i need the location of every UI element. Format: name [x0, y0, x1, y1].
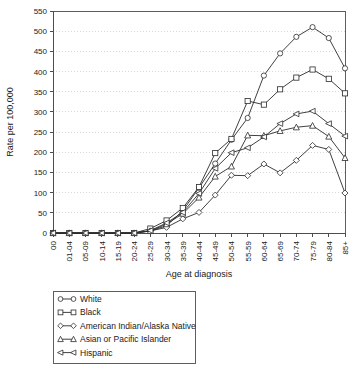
legend-layer: WhiteBlackAmerican Indian/Alaska NativeA… [53, 291, 196, 363]
series-layer [50, 25, 348, 236]
x-tick-label: 80-84 [325, 240, 334, 261]
x-tick-label: 55-59 [244, 240, 253, 261]
data-point-marker-circle [294, 34, 299, 39]
y-tick-label: 350 [34, 88, 48, 97]
grid-layer [53, 11, 345, 213]
data-point-marker-triangle [326, 133, 332, 139]
x-tick-label: 30-34 [163, 240, 172, 261]
y-tick-label: 50 [38, 209, 47, 218]
data-point-marker-circle [58, 297, 63, 302]
y-tick-label: 0 [43, 229, 48, 238]
chart-figure: 0501001502002503003504004505005500001-04… [0, 0, 355, 371]
y-tick-label: 400 [34, 68, 48, 77]
data-point-marker-diamond [342, 190, 348, 196]
x-tick-label: 20-24 [130, 240, 139, 261]
y-tick-label: 500 [34, 27, 48, 36]
y-tick-label: 200 [34, 148, 48, 157]
series-hispanic [50, 108, 348, 235]
x-tick-label: 70-74 [292, 240, 301, 261]
data-point-marker-triangle [310, 123, 316, 129]
data-point-marker-left-triangle [244, 145, 250, 151]
data-point-marker-left-triangle [309, 108, 315, 114]
y-tick-label: 150 [34, 168, 48, 177]
x-tick-label: 65-69 [276, 240, 285, 261]
x-tick-label: 25-29 [146, 240, 155, 261]
data-point-marker-circle [213, 161, 218, 166]
data-point-marker-square [278, 87, 283, 92]
y-tick-label: 100 [34, 189, 48, 198]
data-point-marker-diamond [180, 216, 186, 222]
data-point-marker-square [294, 75, 299, 80]
x-tick-label: 00 [49, 240, 58, 249]
series-polyline [53, 27, 345, 233]
data-point-marker-circle [278, 51, 283, 56]
series-polyline [53, 70, 345, 233]
x-tick-label: 60-64 [260, 240, 269, 261]
data-point-marker-triangle [228, 163, 234, 169]
data-point-marker-square [196, 184, 201, 189]
y-tick-label: 450 [34, 47, 48, 56]
series-asian-or-pacific-islander [50, 123, 348, 236]
x-axis-title: Age at diagnosis [166, 269, 233, 279]
data-point-marker-diamond [261, 161, 267, 167]
data-point-marker-circle [342, 66, 347, 71]
x-tick-label: 10-14 [98, 240, 107, 261]
y-tick-label: 300 [34, 108, 48, 117]
data-point-marker-square [58, 310, 63, 315]
data-point-marker-circle [310, 25, 315, 30]
data-point-marker-square [326, 76, 331, 81]
data-point-marker-diamond [326, 146, 332, 152]
data-point-marker-square [213, 150, 218, 155]
data-point-marker-square [71, 310, 76, 315]
data-point-marker-circle [261, 73, 266, 78]
legend-item-label: White [80, 294, 102, 304]
x-tick-label: 05-09 [81, 240, 90, 261]
data-point-marker-square [342, 91, 347, 96]
x-tick-label: 50-54 [227, 240, 236, 261]
x-tick-label: 35-39 [179, 240, 188, 261]
series-polyline [53, 126, 345, 233]
x-tick-label: 45-49 [211, 240, 220, 261]
labels-layer: 0501001502002503003504004505005500001-04… [5, 7, 350, 279]
data-point-marker-circle [71, 297, 76, 302]
legend-item-label: Asian or Pacific Islander [80, 334, 171, 344]
legend-item-label: American Indian/Alaska Native [80, 321, 196, 331]
y-axis-title: Rate per 100,000 [5, 87, 15, 157]
data-point-marker-triangle [212, 173, 218, 179]
data-point-marker-square [229, 136, 234, 141]
series-white [50, 25, 347, 236]
data-point-marker-square [245, 98, 250, 103]
y-tick-label: 250 [34, 128, 48, 137]
data-point-marker-square [261, 102, 266, 107]
x-tick-label: 01-04 [65, 240, 74, 261]
x-tick-label: 15-19 [114, 240, 123, 261]
x-tick-label: 75-79 [309, 240, 318, 261]
data-point-marker-circle [326, 35, 331, 40]
data-point-marker-square [310, 67, 315, 72]
data-point-marker-circle [245, 115, 250, 120]
rate-by-age-line-chart: 0501001502002503003504004505005500001-04… [0, 0, 355, 371]
x-tick-label: 85+ [341, 241, 350, 255]
data-point-marker-diamond [245, 173, 251, 179]
y-tick-label: 550 [34, 7, 48, 16]
legend-item-label: Hispanic [80, 348, 113, 358]
axes-layer [50, 11, 345, 237]
legend-item-label: Black [80, 307, 102, 317]
x-tick-label: 40-44 [195, 240, 204, 261]
